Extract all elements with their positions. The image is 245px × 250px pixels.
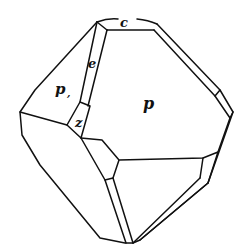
- label-p1-subscript: ,: [66, 87, 70, 99]
- face-labels: c e p , p z: [55, 15, 154, 130]
- crystal-diagram: c e p , p z: [0, 0, 245, 250]
- label-z: z: [74, 115, 83, 130]
- label-c: c: [120, 15, 128, 30]
- crystal-outline: [20, 19, 233, 243]
- label-p: p: [143, 94, 154, 113]
- label-e: e: [88, 56, 96, 71]
- label-p1: p: [55, 80, 66, 98]
